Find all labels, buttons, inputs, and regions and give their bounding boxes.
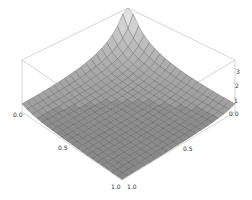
- left-axis-tick-0: 0.0: [13, 111, 23, 118]
- surface-mesh: [22, 8, 235, 180]
- z-axis-tick-2: 2: [235, 82, 239, 89]
- right-axis-tick-1: 0.5: [183, 145, 193, 152]
- z-axis-tick-3: 3: [236, 68, 240, 75]
- right-axis-tick-0: 1.0: [127, 183, 137, 190]
- surface-plot: 0.0 0.5 1.0 1.0 0.5 0.0 1 2 3: [0, 0, 252, 200]
- right-axis-tick-2: 0.0: [229, 110, 239, 117]
- z-axis-tick-1: 1: [234, 97, 238, 104]
- left-axis-tick-2: 1.0: [111, 183, 121, 190]
- left-axis-tick-1: 0.5: [58, 144, 68, 151]
